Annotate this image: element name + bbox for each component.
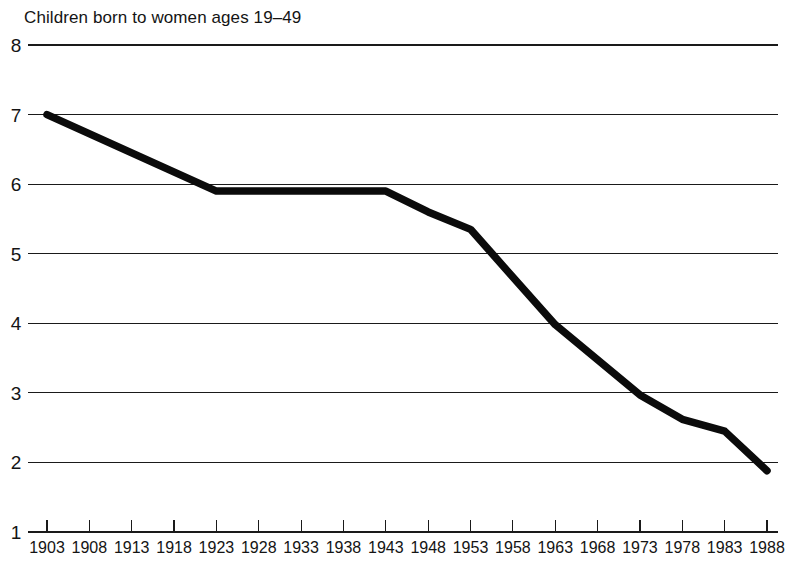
x-tick-label-1923: 1923 xyxy=(199,539,235,556)
x-tick-label-1953: 1953 xyxy=(453,539,489,556)
x-axis-tick-labels: 1903190819131918192319281933193819431948… xyxy=(29,539,785,556)
y-tick-label-7: 7 xyxy=(11,105,22,126)
y-tick-label-6: 6 xyxy=(11,174,22,195)
y-tick-label-3: 3 xyxy=(11,383,22,404)
x-tick-label-1918: 1918 xyxy=(156,539,192,556)
y-tick-label-4: 4 xyxy=(11,313,22,334)
x-tick-label-1988: 1988 xyxy=(749,539,785,556)
x-tick-label-1908: 1908 xyxy=(72,539,108,556)
y-axis-tick-labels: 87654321 xyxy=(11,35,22,543)
x-tick-label-1913: 1913 xyxy=(114,539,150,556)
x-tick-label-1948: 1948 xyxy=(410,539,446,556)
x-tick-label-1943: 1943 xyxy=(368,539,404,556)
x-tick-label-1903: 1903 xyxy=(29,539,65,556)
y-tick-label-2: 2 xyxy=(11,452,22,473)
data-series-line xyxy=(47,115,767,471)
x-tick-label-1963: 1963 xyxy=(537,539,573,556)
x-tick-label-1938: 1938 xyxy=(326,539,362,556)
x-tick-label-1978: 1978 xyxy=(664,539,700,556)
x-tick-label-1968: 1968 xyxy=(580,539,616,556)
line-chart-plot: 87654321 1903190819131918192319281933193… xyxy=(0,0,793,562)
y-tick-label-1: 1 xyxy=(11,522,22,543)
x-tick-label-1928: 1928 xyxy=(241,539,277,556)
x-tick-label-1958: 1958 xyxy=(495,539,531,556)
y-tick-label-5: 5 xyxy=(11,244,22,265)
x-tick-label-1983: 1983 xyxy=(707,539,743,556)
chart-figure: Children born to women ages 19–49 876543… xyxy=(0,0,793,562)
x-tick-label-1973: 1973 xyxy=(622,539,658,556)
x-axis-tickmarks xyxy=(47,520,767,532)
y-tick-label-8: 8 xyxy=(11,35,22,56)
gridlines xyxy=(28,45,778,532)
x-tick-label-1933: 1933 xyxy=(283,539,319,556)
